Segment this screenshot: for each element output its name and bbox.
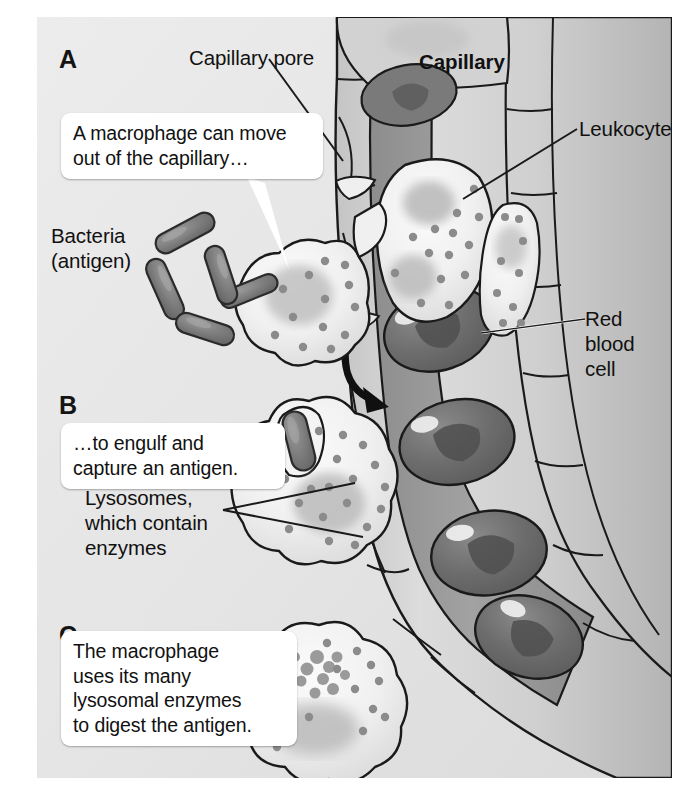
macrophage-nucleus: [265, 265, 333, 325]
panel-letter-a: A: [59, 45, 77, 74]
callout-c: The macrophage uses its many lysosomal e…: [61, 631, 297, 746]
figure-root: A B C Capillary pore Capillary Leukocyte…: [0, 0, 687, 797]
label-capillary-pore: Capillary pore: [189, 45, 314, 70]
leukocyte-nucleus: [403, 181, 455, 225]
callout-b: …to engulf and capture an antigen.: [61, 423, 285, 489]
label-lysosomes: Lysosomes, which contain enzymes: [85, 485, 208, 560]
label-bacteria-antigen: Bacteria (antigen): [51, 223, 131, 273]
label-leukocyte: Leukocyte: [579, 116, 672, 141]
callout-a: A macrophage can move out of the capilla…: [61, 113, 323, 179]
label-red-blood-cell: Red blood cell: [585, 306, 672, 381]
panel-letter-b: B: [59, 391, 77, 420]
label-capillary: Capillary: [419, 49, 505, 74]
illustration-plate: A B C Capillary pore Capillary Leukocyte…: [37, 17, 672, 778]
